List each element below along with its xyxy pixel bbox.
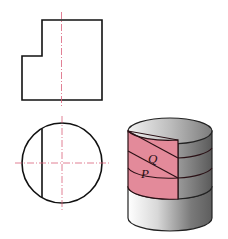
top-view [15,116,110,212]
orthographic-drawing: Q P [0,0,228,239]
label-p: P [140,166,149,181]
front-view-outline [22,20,102,100]
front-view [22,12,102,108]
isometric-view: Q P [128,118,212,231]
label-q: Q [148,151,158,166]
